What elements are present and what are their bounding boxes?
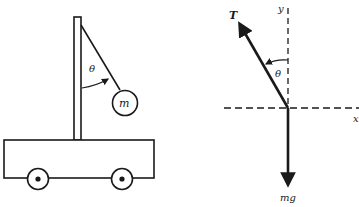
tension-label: T <box>229 9 238 22</box>
angle-label-right: θ <box>275 68 281 79</box>
mass-label: m <box>119 97 129 110</box>
angle-label-left: θ <box>89 63 95 74</box>
wheel-right <box>112 169 133 190</box>
x-axis-label: x <box>353 113 359 124</box>
cart-pendulum-figure: m θ <box>4 17 154 190</box>
pole <box>74 17 81 140</box>
angle-arc-fbd <box>266 60 288 64</box>
tension-vector <box>242 28 288 108</box>
weight-label: mg <box>280 192 296 203</box>
free-body-diagram: y x T mg θ <box>224 3 359 203</box>
pendulum-string <box>81 25 120 90</box>
y-axis-label: y <box>277 3 284 14</box>
wheel-left <box>28 169 49 190</box>
cart-body <box>4 140 154 178</box>
angle-arc <box>82 79 108 88</box>
physics-diagram: m θ y x T mg θ <box>0 0 359 207</box>
